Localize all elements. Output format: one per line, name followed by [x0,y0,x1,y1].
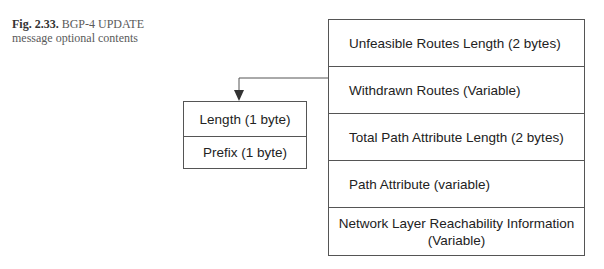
field-label: Prefix (1 byte) [203,145,287,160]
field-path-attribute: Path Attribute (variable) [329,161,584,208]
field-withdrawn-routes: Withdrawn Routes (Variable) [329,67,584,114]
field-unfeasible-routes-length: Unfeasible Routes Length (2 bytes) [329,20,584,67]
update-message-table: Unfeasible Routes Length (2 bytes) Withd… [328,19,585,256]
field-label: Path Attribute (variable) [349,177,490,192]
field-label-line2: (Variable) [339,232,575,249]
field-label: Total Path Attribute Length (2 bytes) [349,130,564,145]
withdrawn-route-box: Length (1 byte) Prefix (1 byte) [183,101,307,169]
field-label: Length (1 byte) [200,112,291,127]
field-total-path-attribute-length: Total Path Attribute Length (2 bytes) [329,114,584,161]
field-label: Unfeasible Routes Length (2 bytes) [349,36,561,51]
arrowhead-icon [234,90,244,101]
field-nlri: Network Layer Reachability Information(V… [329,208,584,255]
field-prefix: Prefix (1 byte) [184,137,306,168]
field-label: Withdrawn Routes (Variable) [349,83,521,98]
field-length: Length (1 byte) [184,102,306,137]
field-label: Network Layer Reachability Information [339,215,575,232]
